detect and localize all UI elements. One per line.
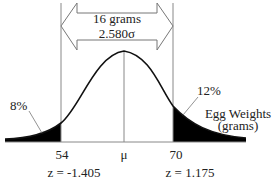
distribution-graphic — [0, 0, 274, 192]
normal-distribution-diagram: 16 grams 2.580σ 8% 12% Egg Weights (gram… — [0, 0, 274, 192]
z-score-left: z = -1.405 — [47, 166, 100, 180]
tick-54: 54 — [56, 148, 69, 162]
left-tail-percent: 8% — [10, 99, 27, 113]
tick-70: 70 — [170, 148, 183, 162]
arrow-label-grams: 16 grams — [93, 12, 141, 26]
axis-label-line2: (grams) — [218, 119, 258, 133]
right-pointer-line — [183, 97, 198, 115]
left-pointer-line — [29, 111, 42, 133]
tick-mean: μ — [121, 148, 128, 162]
z-score-right: z = 1.175 — [166, 166, 215, 180]
arrow-label-sigma: 2.580σ — [99, 27, 135, 41]
right-tail-percent: 12% — [197, 84, 221, 98]
